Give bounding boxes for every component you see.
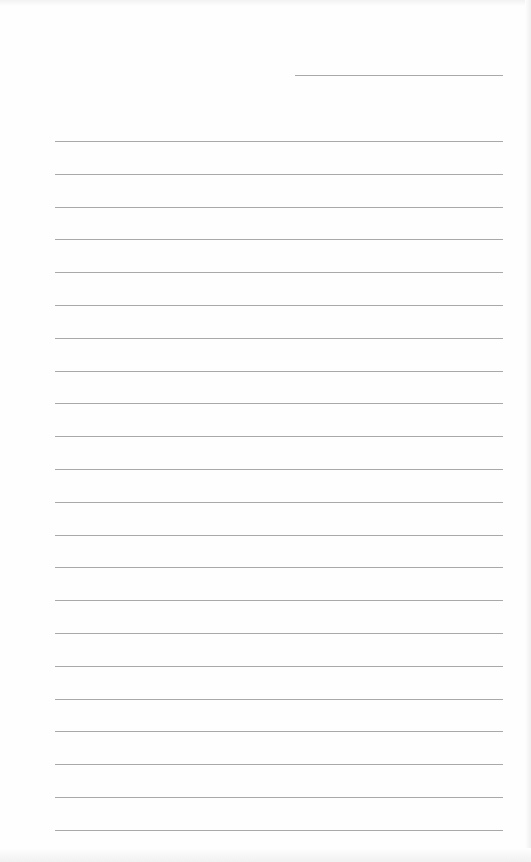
ruled-line xyxy=(55,436,503,437)
header-line xyxy=(295,75,503,76)
ruled-line xyxy=(55,141,503,142)
lined-paper-page xyxy=(0,0,531,862)
ruled-line xyxy=(55,174,503,175)
page-edge-top xyxy=(0,0,531,6)
ruled-line xyxy=(55,830,503,831)
ruled-line xyxy=(55,764,503,765)
ruled-line xyxy=(55,272,503,273)
ruled-line xyxy=(55,731,503,732)
ruled-line xyxy=(55,567,503,568)
page-edge-right xyxy=(525,0,531,862)
ruled-line xyxy=(55,797,503,798)
ruled-line xyxy=(55,371,503,372)
ruled-line xyxy=(55,338,503,339)
ruled-line xyxy=(55,600,503,601)
page-edge-bottom xyxy=(0,848,531,862)
ruled-line xyxy=(55,403,503,404)
ruled-line xyxy=(55,699,503,700)
ruled-line xyxy=(55,239,503,240)
ruled-line xyxy=(55,502,503,503)
ruled-line xyxy=(55,305,503,306)
ruled-line xyxy=(55,666,503,667)
ruled-line xyxy=(55,535,503,536)
ruled-line xyxy=(55,633,503,634)
ruled-line xyxy=(55,469,503,470)
ruled-line xyxy=(55,207,503,208)
